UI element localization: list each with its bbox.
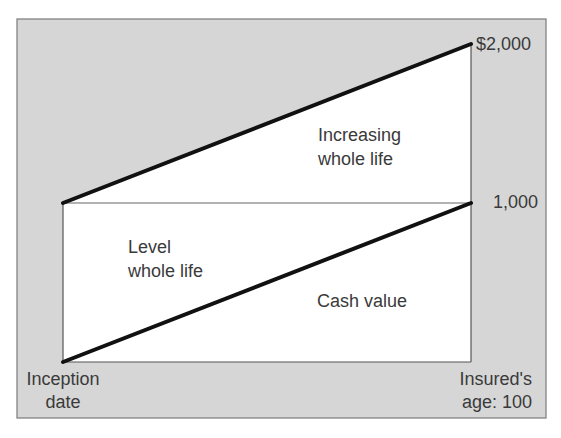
region-increasing-label-1: Increasing	[318, 125, 401, 146]
region-increasing-label-2: whole life	[318, 149, 393, 170]
region-cash-value-label: Cash value	[317, 291, 407, 312]
x-label-age-2: age: 100	[410, 392, 532, 413]
x-label-age-1: Insured's	[410, 369, 532, 390]
x-label-inception-1: Inception	[20, 369, 106, 390]
whole-life-diagram: $2,000 1,000 Increasing whole life Level…	[0, 0, 561, 438]
region-level-label-2: whole life	[128, 261, 203, 282]
y-label-2000: $2,000	[476, 34, 531, 55]
y-label-1000: 1,000	[470, 192, 538, 213]
region-level-label-1: Level	[128, 237, 171, 258]
x-label-inception-2: date	[20, 392, 106, 413]
